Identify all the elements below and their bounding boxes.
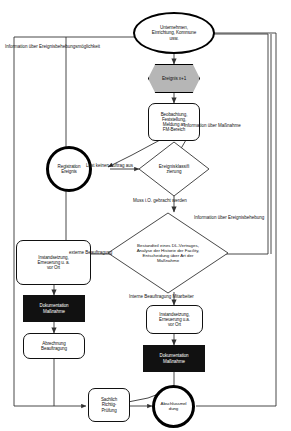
node-observation-label: Beobachtung, Feststellung, Meldung an FM… [149,112,199,132]
node-doc-internal: Dokumentation Maßnahme [143,345,205,372]
node-final-report-label: Abschlussmel dung [155,402,192,412]
edge-label-internal-assignment: Interne Beauftragung Mitarbeiter [129,295,194,300]
node-doc-external-label: Dokumentation Maßnahme [24,303,84,313]
node-repair-internal: Instandsetzung, Erneuerung u.a. vor Ort [146,305,203,334]
node-repair-external-label: Instandsetzung, Erneuerung u. a. vor Ort [17,255,90,270]
node-decision-measure: Bestandteil eines DL-Vertrages, Analyse … [108,213,228,293]
node-event: Ereignis x+1 [148,64,200,93]
node-observation: Beobachtung, Feststellung, Meldung an FM… [148,103,200,141]
edge-label-must-be-fixed: Muss i.O. gebracht werden [133,199,187,204]
node-classification-label: Ereignisklassifi zierung [139,142,209,196]
node-decision-measure-label: Bestandteil eines DL-Vertrages, Analyse … [108,213,228,293]
node-check: Sachlich Richtig- Prüfung [88,388,130,422]
edge-label-info-event-fixed: Information über Ereignisbehebung [194,216,264,221]
node-billing: Abrechnung Beauftragung [23,333,85,359]
node-check-label: Sachlich Richtig- Prüfung [89,397,129,412]
node-doc-external: Dokumentation Maßnahme [23,295,85,322]
flowchart-canvas: Unternehmen, Einrichtung, Kommune usw. E… [0,0,291,431]
node-registration: Registration Ereignis [46,146,92,192]
node-repair-internal-label: Instandsetzung, Erneuerung u.a. vor Ort [147,312,202,327]
node-company: Unternehmen, Einrichtung, Kommune usw. [133,12,215,54]
node-doc-internal-label: Dokumentation Maßnahme [144,353,204,363]
node-final-report: Abschlussmel dung [152,385,195,428]
node-company-label: Unternehmen, Einrichtung, Kommune usw. [135,25,213,40]
node-classification: Ereignisklassifi zierung [139,142,209,196]
edge-label-info-measure: Information über Maßnahme [184,124,241,129]
edge-label-no-order: Löst keinen Auftrag aus [86,164,133,169]
edge-label-info-event-fix-possibility: Information über Ereignisbehebungsmöglic… [5,45,100,50]
edge-label-external-assignment: externe Beauftragung [69,251,112,256]
node-event-label: Ereignis x+1 [149,76,199,81]
node-billing-label: Abrechnung Beauftragung [24,341,84,351]
node-repair-external: Instandsetzung, Erneuerung u. a. vor Ort [16,240,91,285]
node-registration-label: Registration Ereignis [49,164,89,174]
